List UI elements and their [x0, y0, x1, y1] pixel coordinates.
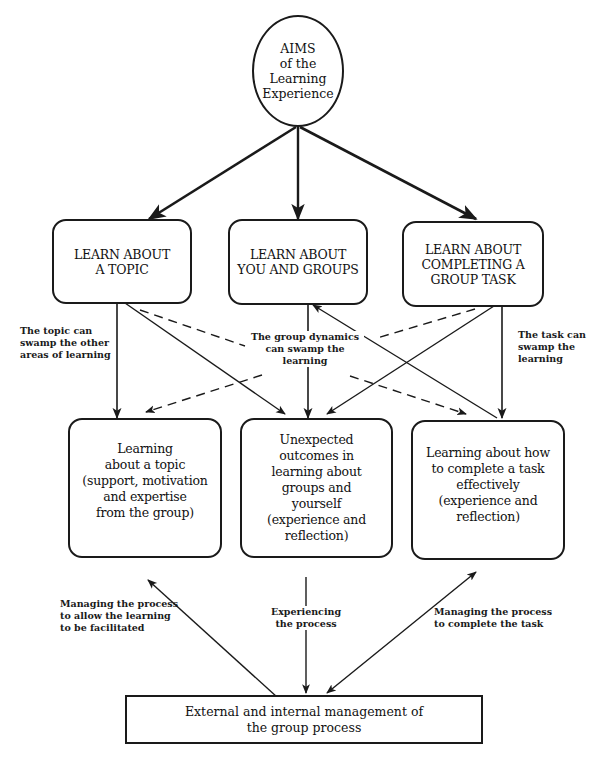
box-line: effectively — [426, 477, 550, 493]
note-line: The group dynamics — [246, 331, 364, 343]
box-line: yourself — [267, 496, 366, 512]
note-line: areas of learning — [20, 349, 112, 361]
box-line: and expertise — [82, 489, 207, 505]
aims-label: AIMS of the Learning Experience — [262, 41, 333, 101]
note-line: learning — [246, 355, 364, 367]
note-line: Managing the process — [60, 598, 185, 610]
box-line: from the group) — [82, 505, 207, 521]
box-line: (experience and — [267, 512, 366, 528]
experiencing-note: Experiencing the process — [266, 606, 346, 630]
box-line: (support, motivation — [82, 473, 207, 489]
note-line: the process — [266, 618, 346, 630]
note-line: Managing the process — [434, 606, 559, 618]
learn-topic-box: LEARN ABOUT A TOPIC — [52, 219, 192, 304]
box-line: YOU AND GROUPS — [237, 262, 358, 277]
group-swamp-note: The group dynamics can swamp the learnin… — [246, 331, 364, 367]
groups-outcome-box: Unexpected outcomes in learning about gr… — [240, 418, 393, 558]
dashed-topic-to-task-outcome-a — [140, 310, 245, 346]
box-line: A TOPIC — [74, 262, 170, 277]
note-line: swamp the other — [20, 337, 112, 349]
box-line: the group process — [185, 720, 423, 736]
dashed-topic-to-task-outcome-b — [350, 376, 466, 414]
box-line: LEARN ABOUT — [237, 247, 358, 262]
box-line: learning about — [267, 464, 366, 480]
manage-learning-note: Managing the process to allow the learni… — [60, 598, 185, 634]
box-line: groups and — [267, 480, 366, 496]
box-line: COMPLETING A — [421, 257, 524, 272]
task-outcome-box: Learning about how to complete a task ef… — [411, 420, 565, 560]
arrow-aims-to-task — [300, 127, 476, 219]
topic-outcome-box: Learning about a topic (support, motivat… — [68, 418, 222, 558]
dashed-task-to-topic-outcome-b — [146, 375, 262, 412]
box-line: about a topic — [82, 457, 207, 473]
box-line: Learning about how — [426, 445, 550, 461]
topic-swamp-note: The topic can swamp the other areas of l… — [20, 325, 112, 361]
box-line: Unexpected — [267, 432, 366, 448]
aims-circle: AIMS of the Learning Experience — [252, 15, 344, 127]
note-line: to complete the task — [434, 618, 559, 630]
dashed-task-to-topic-outcome-a — [377, 309, 475, 338]
aims-line: AIMS — [262, 41, 333, 56]
box-line: reflection) — [267, 528, 366, 544]
learn-groups-box: LEARN ABOUT YOU AND GROUPS — [228, 219, 368, 305]
manage-task-note: Managing the process to complete the tas… — [434, 606, 559, 630]
box-line: External and internal management of — [185, 704, 423, 720]
management-box: External and internal management of the … — [125, 695, 483, 744]
aims-line: Learning — [262, 71, 333, 86]
task-swamp-note: The task can swamp the learning — [518, 329, 598, 365]
box-line: Learning — [82, 441, 207, 457]
box-line: GROUP TASK — [421, 272, 524, 287]
learn-task-box: LEARN ABOUT COMPLETING A GROUP TASK — [402, 221, 544, 307]
note-line: The task can — [518, 329, 598, 341]
aims-line: Experience — [262, 86, 333, 101]
note-line: learning — [518, 353, 598, 365]
arrow-aims-to-topic — [149, 127, 296, 219]
box-line: outcomes in — [267, 448, 366, 464]
box-line: LEARN ABOUT — [421, 242, 524, 257]
note-line: can swamp the — [246, 343, 364, 355]
box-line: (experience and — [426, 493, 550, 509]
aims-line: of the — [262, 56, 333, 71]
note-line: Experiencing — [266, 606, 346, 618]
arrow-task-outcome-to-management — [327, 572, 476, 693]
note-line: swamp the — [518, 341, 598, 353]
box-line: LEARN ABOUT — [74, 247, 170, 262]
box-line: reflection) — [426, 509, 550, 525]
note-line: The topic can — [20, 325, 112, 337]
note-line: to be facilitated — [60, 622, 185, 634]
box-line: to complete a task — [426, 461, 550, 477]
note-line: to allow the learning — [60, 610, 185, 622]
